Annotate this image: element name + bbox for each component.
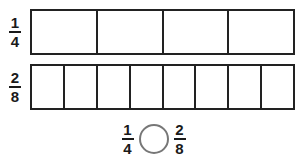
fraction-bar-cell[interactable] <box>131 66 164 108</box>
fraction-bar-cell[interactable] <box>98 11 164 53</box>
fraction-numerator: 1 <box>122 122 132 138</box>
fraction-denominator: 4 <box>10 33 20 49</box>
fraction-one-fourth: 1 4 <box>9 15 21 50</box>
fraction-bar-cell[interactable] <box>262 66 293 108</box>
fraction-bar-cell[interactable] <box>32 66 65 108</box>
fraction-bar-cell[interactable] <box>164 66 197 108</box>
fraction-bar-row-eighths: 2 8 <box>0 63 295 111</box>
fraction-bar-cell[interactable] <box>164 11 230 53</box>
fraction-denominator: 4 <box>122 140 132 156</box>
fraction-numerator: 2 <box>174 122 184 138</box>
fraction-two-eighths: 2 8 <box>9 70 21 105</box>
fraction-bar-cell[interactable] <box>65 66 98 108</box>
fraction-bar-four-parts <box>30 9 295 55</box>
comparison-operator-circle[interactable] <box>139 124 169 154</box>
comparison-left-fraction: 1 4 <box>122 122 134 157</box>
fraction-bar-cell[interactable] <box>229 11 293 53</box>
fraction-numerator: 2 <box>10 70 20 86</box>
fraction-bar-cell[interactable] <box>196 66 229 108</box>
row-label-quarter: 1 4 <box>0 15 30 50</box>
fraction-numerator: 1 <box>10 15 20 31</box>
fraction-bar-cell[interactable] <box>32 11 98 53</box>
row-label-eighths: 2 8 <box>0 70 30 105</box>
fraction-comparison-worksheet: 1 4 2 8 <box>0 0 307 164</box>
comparison-statement: 1 4 2 8 <box>0 118 307 160</box>
fraction-denominator: 8 <box>10 88 20 104</box>
comparison-right-fraction: 2 8 <box>174 122 186 157</box>
fraction-bar-eight-parts <box>30 64 295 110</box>
fraction-bar-cell[interactable] <box>229 66 262 108</box>
fraction-bar-row-quarter: 1 4 <box>0 8 295 56</box>
fraction-denominator: 8 <box>174 140 184 156</box>
fraction-bar-cell[interactable] <box>98 66 131 108</box>
